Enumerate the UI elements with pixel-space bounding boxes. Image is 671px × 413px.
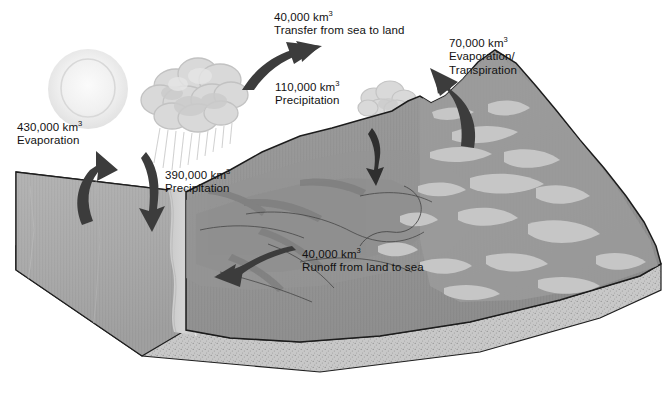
evapotrans-caption-2: Transpiration (449, 64, 517, 76)
precip-land-exponent: 3 (335, 79, 339, 88)
precip-sea-value: 390,000 km (165, 169, 226, 181)
runoff-from-land-to-sea-label: 40,000 km3 Runoff from land to sea (302, 248, 424, 275)
sun-icon (48, 49, 128, 129)
transfer-from-sea-to-land-label: 40,000 km3 Transfer from sea to land (274, 11, 405, 38)
water-cycle-diagram: 40,000 km3 Transfer from sea to land 70,… (0, 0, 671, 413)
runoff-value: 40,000 km (302, 248, 357, 260)
runoff-caption: Runoff from land to sea (302, 261, 424, 273)
evaporation-exponent: 3 (78, 119, 82, 128)
transfer-caption: Transfer from sea to land (274, 24, 405, 36)
evaporation-caption: Evaporation (17, 134, 79, 146)
evapotrans-value: 70,000 km (449, 37, 504, 49)
diagram-artwork (0, 0, 671, 413)
evapotrans-caption-1: Evaporation/ (449, 50, 515, 62)
precip-sea-exponent: 3 (226, 167, 230, 176)
precipitation-over-sea-label: 390,000 km3 Precipitation (165, 169, 230, 196)
precip-land-value: 110,000 km (275, 81, 335, 93)
precipitation-over-land-label: 110,000 km3 Precipitation (275, 81, 340, 108)
precip-land-caption: Precipitation (275, 94, 340, 106)
cloud-icon (141, 58, 248, 132)
evaporation-value: 430,000 km (17, 121, 78, 133)
evaporation-from-sea-label: 430,000 km3 Evaporation (17, 121, 82, 148)
evaporation-transpiration-label: 70,000 km3 Evaporation/ Transpiration (449, 37, 517, 77)
evapotrans-exponent: 3 (504, 35, 508, 44)
transfer-exponent: 3 (329, 9, 333, 18)
precip-sea-caption: Precipitation (165, 182, 230, 194)
runoff-exponent: 3 (357, 246, 361, 255)
transfer-value: 40,000 km (274, 11, 329, 23)
